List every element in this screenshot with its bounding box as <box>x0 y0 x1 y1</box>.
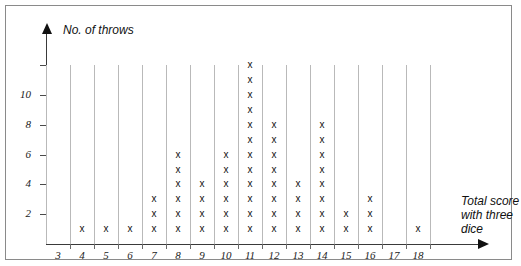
data-point-marker: x <box>269 209 279 219</box>
gridline <box>358 65 359 244</box>
data-point-marker: x <box>317 120 327 130</box>
gridline <box>334 65 335 244</box>
x-axis-tick-label: 18 <box>406 249 430 261</box>
x-axis-tick-label: 3 <box>46 249 70 261</box>
y-axis-title: No. of throws <box>63 23 134 37</box>
data-point-marker: x <box>77 224 87 234</box>
x-axis-tick-label: 14 <box>310 249 334 261</box>
x-axis-title: Total score with three dice <box>461 194 521 236</box>
gridline <box>406 65 407 244</box>
data-point-marker: x <box>149 194 159 204</box>
x-axis-tick-label: 12 <box>262 249 286 261</box>
data-point-marker: x <box>245 135 255 145</box>
x-axis-tick-label: 5 <box>94 249 118 261</box>
x-axis-tick-label: 4 <box>70 249 94 261</box>
data-point-marker: x <box>269 120 279 130</box>
gridline <box>262 65 263 244</box>
gridline <box>142 65 143 244</box>
data-point-marker: x <box>317 224 327 234</box>
data-point-marker: x <box>221 194 231 204</box>
data-point-marker: x <box>269 194 279 204</box>
data-point-marker: x <box>221 150 231 160</box>
data-point-marker: x <box>197 224 207 234</box>
data-point-marker: x <box>197 209 207 219</box>
gridline <box>238 65 239 244</box>
gridline <box>430 65 431 244</box>
x-axis-tick-label: 17 <box>382 249 406 261</box>
y-axis-tick-label: 10 <box>11 88 31 100</box>
data-point-marker: x <box>317 194 327 204</box>
y-axis-arrow-icon <box>42 23 52 34</box>
data-point-marker: x <box>149 224 159 234</box>
x-axis-tick-label: 8 <box>166 249 190 261</box>
data-point-marker: x <box>269 224 279 234</box>
data-point-marker: x <box>413 224 423 234</box>
data-point-marker: x <box>245 150 255 160</box>
x-axis-tick-label: 15 <box>334 249 358 261</box>
data-point-marker: x <box>341 209 351 219</box>
data-point-marker: x <box>245 120 255 130</box>
x-axis-tick <box>430 244 431 249</box>
data-point-marker: x <box>173 194 183 204</box>
x-axis-arrow-icon <box>478 239 489 249</box>
chart-frame: No. of throws Total score with three dic… <box>5 5 512 260</box>
x-axis-line <box>46 244 486 245</box>
data-point-marker: x <box>245 194 255 204</box>
x-axis-tick-label: 16 <box>358 249 382 261</box>
data-point-marker: x <box>365 224 375 234</box>
gridline <box>94 65 95 244</box>
x-axis-tick-label: 9 <box>190 249 214 261</box>
data-point-marker: x <box>317 209 327 219</box>
data-point-marker: x <box>293 209 303 219</box>
data-point-marker: x <box>245 224 255 234</box>
data-point-marker: x <box>173 224 183 234</box>
data-point-marker: x <box>101 224 111 234</box>
x-axis-tick-label: 7 <box>142 249 166 261</box>
data-point-marker: x <box>269 135 279 145</box>
x-axis-tick-label: 6 <box>118 249 142 261</box>
data-point-marker: x <box>293 224 303 234</box>
data-point-marker: x <box>221 209 231 219</box>
gridline <box>214 65 215 244</box>
x-axis-tick-label: 11 <box>238 249 262 261</box>
data-point-marker: x <box>221 165 231 175</box>
data-point-marker: x <box>341 224 351 234</box>
data-point-marker: x <box>197 179 207 189</box>
data-point-marker: x <box>269 179 279 189</box>
y-axis-tick-label: 2 <box>11 207 31 219</box>
data-point-marker: x <box>221 224 231 234</box>
data-point-marker: x <box>269 150 279 160</box>
gridline <box>286 65 287 244</box>
x-axis-tick-label: 13 <box>286 249 310 261</box>
y-axis-tick-label: 6 <box>11 148 31 160</box>
data-point-marker: x <box>245 75 255 85</box>
data-point-marker: x <box>317 179 327 189</box>
data-point-marker: x <box>293 194 303 204</box>
y-axis-tick-label: 4 <box>11 177 31 189</box>
data-point-marker: x <box>173 165 183 175</box>
y-axis-tick-label: 8 <box>11 118 31 130</box>
data-point-marker: x <box>173 179 183 189</box>
data-point-marker: x <box>173 150 183 160</box>
data-point-marker: x <box>245 179 255 189</box>
data-point-marker: x <box>245 165 255 175</box>
data-point-marker: x <box>365 209 375 219</box>
data-point-marker: x <box>245 105 255 115</box>
x-axis-tick-label: 10 <box>214 249 238 261</box>
gridline <box>118 65 119 244</box>
data-point-marker: x <box>365 194 375 204</box>
data-point-marker: x <box>245 60 255 70</box>
data-point-marker: x <box>293 179 303 189</box>
data-point-marker: x <box>221 179 231 189</box>
data-point-marker: x <box>149 209 159 219</box>
data-point-marker: x <box>173 209 183 219</box>
data-point-marker: x <box>269 165 279 175</box>
data-point-marker: x <box>125 224 135 234</box>
data-point-marker: x <box>317 135 327 145</box>
data-point-marker: x <box>245 209 255 219</box>
gridline <box>310 65 311 244</box>
data-point-marker: x <box>317 165 327 175</box>
gridline <box>190 65 191 244</box>
data-point-marker: x <box>197 194 207 204</box>
